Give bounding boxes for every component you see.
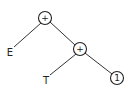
edge-root-to-plus2	[50, 22, 75, 45]
node-one-label: 1	[114, 73, 120, 83]
edge-root-to-E	[14, 23, 41, 47]
node-T-label: T	[42, 75, 50, 86]
node-plus2: +	[74, 43, 87, 56]
node-plus2-label: +	[76, 44, 84, 54]
node-one: 1	[111, 72, 124, 85]
expression-tree-diagram: + + E T 1	[0, 0, 131, 93]
node-root-label: +	[41, 13, 49, 23]
edge-plus2-to-T	[50, 54, 76, 75]
node-E-label: E	[7, 47, 13, 58]
edge-plus2-to-one	[85, 53, 112, 74]
node-root-plus: +	[39, 12, 52, 25]
